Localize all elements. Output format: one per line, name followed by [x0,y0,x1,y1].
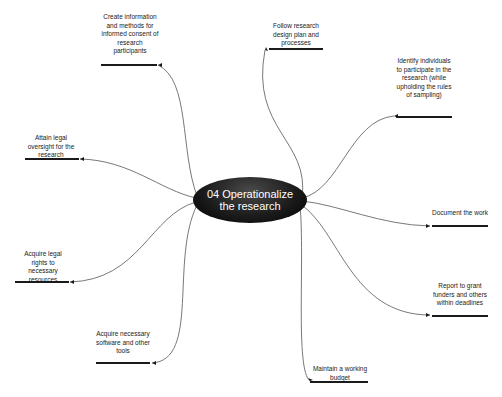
branch-node-identify[interactable]: Identify individuals to participate in t… [396,57,452,100]
branch-label: Create information and methods for infor… [101,13,158,54]
branch-underline [432,315,488,317]
branch-node-consent[interactable]: Create information and methods for infor… [100,13,160,56]
branch-underline [101,64,157,66]
branch-node-follow[interactable]: Follow research design plan and processe… [270,22,322,48]
branch-node-document[interactable]: Document the work [432,209,488,218]
central-topic-node[interactable]: 04 Operationalize the research [193,177,307,223]
connector-report [300,204,430,315]
branch-underline [25,158,79,160]
branch-label: Acquire legal rights to necessary resour… [24,250,62,283]
branch-label: Maintain a working budget [313,365,367,381]
branch-label: Attain legal oversight for the research [28,134,75,158]
branch-underline [396,116,452,118]
arrow-icon [80,157,84,161]
central-topic-label: 04 Operationalize the research [199,188,301,212]
branch-underline [310,381,368,383]
connector-budget [300,205,310,381]
connector-oversight [80,159,196,198]
branch-label: Report to grant funders and others withi… [433,282,487,306]
branch-underline [15,281,69,283]
connector-software [152,205,197,363]
connector-document [302,201,430,226]
branch-node-software[interactable]: Acquire necessary software and other too… [96,330,150,356]
branch-node-oversight[interactable]: Attain legal oversight for the research [24,134,78,160]
connector-identify [302,116,394,198]
branch-node-report[interactable]: Report to grant funders and others withi… [432,282,488,308]
connector-rights [70,202,196,282]
branch-underline [96,362,150,364]
arrow-icon [70,280,74,284]
branch-node-budget[interactable]: Maintain a working budget [312,365,368,382]
branch-label: Acquire necessary software and other too… [96,330,150,354]
connector-consent [158,65,197,196]
branch-label: Identify individuals to participate in t… [397,57,452,98]
branch-label: Follow research design plan and processe… [273,22,319,46]
arrow-icon [265,47,268,51]
branch-underline [432,225,488,227]
branch-underline [269,48,323,50]
connector-follow [263,50,303,198]
branch-label: Document the work [432,209,488,216]
arrow-icon [426,224,430,228]
branch-node-rights[interactable]: Acquire legal rights to necessary resour… [16,250,70,284]
arrow-icon [152,361,156,365]
arrow-icon [426,313,430,317]
